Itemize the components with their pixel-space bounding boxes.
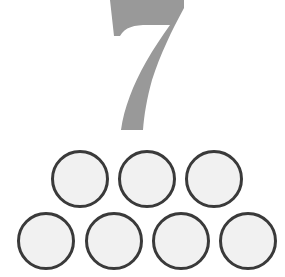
counter-circle xyxy=(85,212,143,270)
counter-circle xyxy=(51,150,109,208)
counter-circle xyxy=(185,150,243,208)
counter-circle xyxy=(152,212,210,270)
numeral-seven-glyph xyxy=(100,0,190,135)
counter-circle xyxy=(118,150,176,208)
numeral-seven: 7 xyxy=(100,0,190,135)
counter-circle xyxy=(17,212,75,270)
counter-circle xyxy=(219,212,277,270)
